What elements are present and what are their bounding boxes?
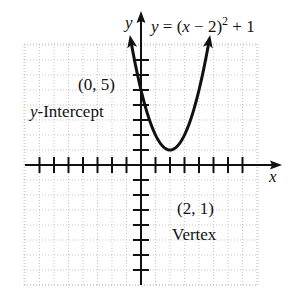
vertex-point-label: (2, 1) bbox=[177, 200, 214, 217]
vertex-label: Vertex bbox=[172, 226, 216, 243]
equation-x: x bbox=[182, 17, 190, 36]
parabola-chart bbox=[0, 0, 293, 299]
y-intercept-text: -Intercept bbox=[38, 102, 104, 121]
x-axis-label: x bbox=[269, 168, 277, 185]
equation-label: y = (x − 2)2 + 1 bbox=[151, 15, 255, 35]
y-intercept-point-label: (0, 5) bbox=[78, 76, 115, 93]
equation-equals: = ( bbox=[159, 17, 183, 36]
axes bbox=[25, 11, 282, 285]
equation-tail: + 1 bbox=[228, 17, 255, 36]
equation-y: y bbox=[151, 17, 159, 36]
equation-minus: − 2) bbox=[190, 17, 222, 36]
y-intercept-var: y bbox=[30, 102, 38, 121]
y-axis-label: y bbox=[125, 14, 133, 31]
y-intercept-label: y-Intercept bbox=[30, 103, 104, 120]
